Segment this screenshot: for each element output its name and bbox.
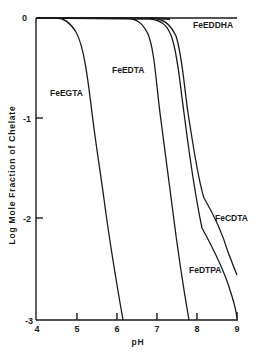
x-tick-6: 6 [114, 324, 119, 334]
label-feeddha: FeEDDHA [193, 20, 233, 30]
label-feedta: FeEDTA [112, 65, 144, 75]
series-feedta [36, 18, 189, 320]
x-tick-4: 4 [34, 324, 39, 334]
x-tick-5: 5 [74, 324, 79, 334]
label-fecdta: FeCDTA [215, 213, 248, 223]
x-axis-title: pH [132, 337, 145, 347]
y-tick-3: -3 [25, 316, 33, 326]
overlap-stroke [150, 18, 170, 19]
x-tick-8: 8 [194, 324, 199, 334]
x-tick-9: 9 [234, 324, 239, 334]
label-fedtpa: FeDTPA [189, 265, 221, 275]
label-feegta: FeEGTA [50, 88, 83, 98]
chart: 0 -1 -2 -3 4 5 6 7 8 9 pH Log Mole Fract… [0, 0, 258, 354]
y-axis-title: Log Mole Fraction of Chelate [7, 105, 17, 244]
y-tick-0: 0 [22, 13, 27, 23]
series-feegta [36, 18, 123, 320]
x-tick-7: 7 [154, 324, 159, 334]
y-tick-2: -2 [23, 214, 31, 224]
y-tick-labels: 0 -1 -2 -3 [22, 13, 33, 326]
y-tick-1: -1 [23, 114, 31, 124]
x-tick-labels: 4 5 6 7 8 9 [34, 324, 239, 334]
